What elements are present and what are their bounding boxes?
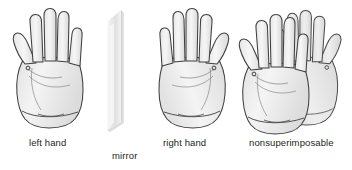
- right-hand-panel: [140, 4, 236, 136]
- right-hand-caption: right hand: [163, 137, 206, 148]
- left-hand-panel: [6, 4, 102, 136]
- nonsuperimposable-caption: nonsuperimposable: [249, 137, 334, 148]
- right-hand-palm-icon: [140, 4, 236, 136]
- left-hand-caption: left hand: [29, 137, 66, 148]
- mirror-caption: mirror: [112, 150, 137, 161]
- overlapping-hands-icon: [232, 2, 350, 136]
- mirror-panel: [100, 4, 142, 136]
- left-hand-palm-icon: [6, 4, 102, 136]
- nonsuperimposable-panel: [232, 2, 350, 136]
- mirror-plane-icon: [100, 4, 142, 136]
- chirality-hands-figure: left hand: [0, 0, 352, 170]
